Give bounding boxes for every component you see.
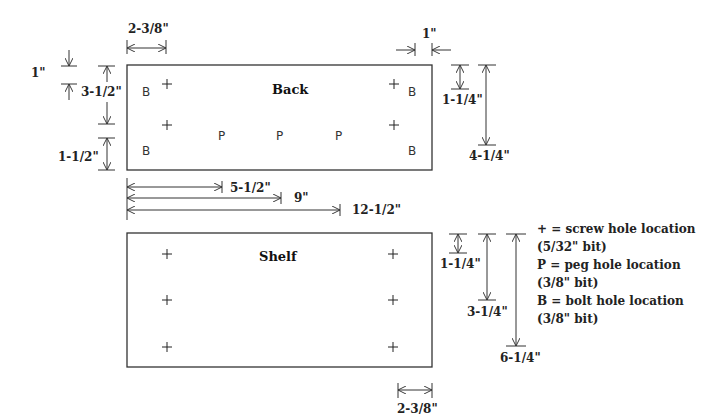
legend-peg: P = peg hole location (537, 258, 681, 272)
dim-back-right-top-screw: 1-1/4" (442, 65, 483, 107)
svg-text:1-1/4": 1-1/4" (440, 257, 481, 271)
bolt-hole-mark: B (142, 85, 150, 99)
svg-text:4-1/4": 4-1/4" (469, 149, 510, 163)
svg-text:1": 1" (422, 27, 437, 41)
peg-hole-mark: P (276, 129, 283, 143)
svg-text:12-1/2": 12-1/2" (352, 203, 401, 217)
svg-text:5-1/2": 5-1/2" (230, 181, 271, 195)
svg-text:2-3/8": 2-3/8" (397, 402, 438, 416)
screw-hole-icon (162, 120, 172, 130)
bolt-hole-mark: B (142, 144, 150, 158)
peg-hole-mark: P (218, 129, 225, 143)
svg-text:2-3/8": 2-3/8" (128, 22, 169, 36)
dim-shelf-right-offset: 2-3/8" (397, 383, 438, 416)
screw-hole-icon (162, 342, 172, 352)
bolt-hole-mark: B (408, 144, 416, 158)
shelf-board: Shelf (127, 233, 432, 367)
drilling-diagram: Back B B B B P P P 2-3/8" 1" 1" (0, 0, 712, 418)
dim-shelf-bottom-screw: 6-1/4" (500, 234, 541, 365)
screw-hole-icon (388, 342, 398, 352)
svg-text:1": 1" (31, 66, 46, 80)
screw-hole-icon (389, 120, 399, 130)
legend-screw: + = screw hole location (537, 222, 696, 236)
screw-hole-icon (162, 79, 172, 89)
screw-hole-icon (388, 249, 398, 259)
dim-back-bottom-offset: 1-1/2" (58, 138, 115, 170)
dim-shelf-top-screw: 1-1/4" (440, 234, 481, 271)
svg-text:6-1/4": 6-1/4" (500, 351, 541, 365)
legend-bolt-bit: (3/8" bit) (537, 312, 598, 326)
svg-text:3-1/4": 3-1/4" (467, 305, 508, 319)
dim-peg-positions: 5-1/2" 9" 12-1/2" (127, 178, 401, 220)
screw-hole-icon (389, 79, 399, 89)
dim-back-right-lower-screw: 4-1/4" (469, 65, 510, 163)
bolt-hole-mark: B (408, 85, 416, 99)
svg-text:1-1/4": 1-1/4" (442, 93, 483, 107)
shelf-board-title: Shelf (259, 249, 298, 264)
legend-bolt: B = bolt hole location (537, 294, 684, 308)
svg-text:3-1/2": 3-1/2" (81, 85, 122, 99)
back-board-outline (127, 65, 432, 170)
screw-hole-icon (162, 249, 172, 259)
dim-back-screw-spacing: 3-1/2" (81, 66, 122, 124)
back-board: Back B B B B P P P (127, 65, 432, 170)
screw-hole-icon (388, 295, 398, 305)
dim-shelf-mid-screw: 3-1/4" (467, 234, 508, 319)
dim-back-right-offset: 1" (396, 27, 451, 56)
peg-hole-mark: P (335, 129, 342, 143)
svg-text:9": 9" (294, 191, 309, 205)
svg-text:1-1/2": 1-1/2" (58, 150, 99, 164)
dim-back-left-offset: 2-3/8" (127, 22, 169, 54)
legend-screw-bit: (5/32" bit) (537, 240, 607, 254)
screw-hole-icon (162, 295, 172, 305)
legend-peg-bit: (3/8" bit) (537, 276, 598, 290)
back-board-title: Back (272, 82, 309, 97)
legend: + = screw hole location (5/32" bit) P = … (537, 222, 696, 326)
dim-back-top-offset: 1" (31, 50, 77, 100)
